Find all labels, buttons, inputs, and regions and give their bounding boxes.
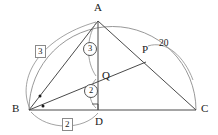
vertex-label-B: B [12,103,19,114]
boxed-label-three: 3 [35,45,46,58]
angle-dot-lower-icon [42,105,45,108]
vertex-label-C: C [201,103,208,114]
vertex-label-D: D [95,116,103,127]
circled-label-two: 2 [84,84,98,98]
vertex-label-Q: Q [102,70,110,81]
semicircle-arc [29,27,196,111]
arc-length-label-twenty: 20 [159,39,169,49]
vertex-label-P: P [142,44,148,55]
circled-label-three: 3 [83,42,97,56]
boxed-label-two: 2 [62,118,73,131]
geometry-canvas [0,0,218,135]
geometry-figure: A B C D P Q 3 2 3 2 20 [0,0,218,135]
vertex-label-A: A [94,2,102,13]
angle-dot-upper-icon [39,95,42,98]
